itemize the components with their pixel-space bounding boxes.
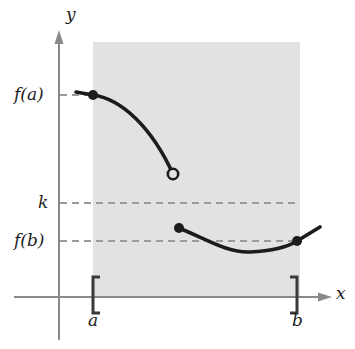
x-axis-arrowhead — [318, 293, 332, 302]
endpoint-dot-lower-branch-start — [174, 223, 184, 233]
endpoint-dot-f-of-b — [292, 236, 302, 246]
f-of-b-label: f(b) — [14, 232, 44, 249]
y-axis-label: y — [66, 6, 76, 23]
y-axis-arrowhead — [55, 30, 64, 44]
intermediate-value-theorem-figure: y x f(a) k f(b) a b — [0, 0, 355, 349]
f-of-a-label: f(a) — [14, 86, 44, 103]
figure-canvas — [0, 0, 355, 349]
open-circle-discontinuity — [168, 169, 178, 179]
interval-upper-bound-label: b — [292, 312, 303, 329]
interval-lower-bound-label: a — [88, 312, 98, 329]
shaded-interval-band — [93, 42, 300, 297]
x-axis-label: x — [336, 285, 346, 302]
endpoint-dot-f-of-a — [88, 90, 98, 100]
k-label: k — [38, 194, 48, 211]
